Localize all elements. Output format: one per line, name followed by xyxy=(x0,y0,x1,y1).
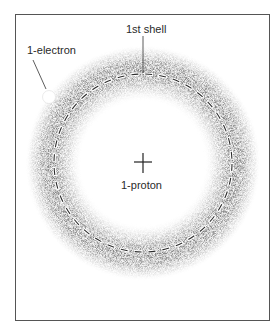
proton-label: 1-proton xyxy=(121,179,162,191)
atom-diagram: 1st shell 1-electron 1-proton xyxy=(0,0,280,332)
electron-icon xyxy=(43,91,56,104)
shell-label: 1st shell xyxy=(126,23,166,35)
electron-label: 1-electron xyxy=(27,44,76,56)
